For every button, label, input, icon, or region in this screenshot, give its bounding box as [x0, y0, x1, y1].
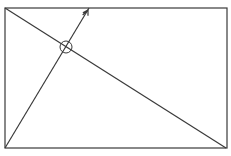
geometry-diagram: [0, 0, 231, 156]
diagonal-line: [5, 8, 226, 148]
slant-line: [5, 8, 89, 148]
